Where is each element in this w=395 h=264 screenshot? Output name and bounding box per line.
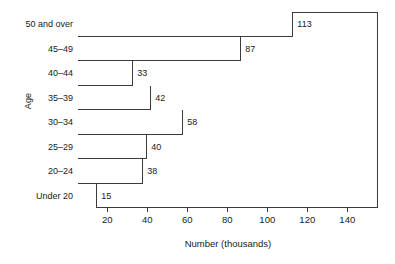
bar-value-label: 87 (241, 44, 255, 54)
x-tick-mark (147, 208, 148, 212)
bar (78, 37, 241, 62)
x-tick-label: 60 (167, 214, 207, 225)
bar-chart: Age 50 and over45–4940–4435–3930–3425–29… (0, 0, 395, 264)
bar-row: 87 (78, 37, 376, 62)
bar (78, 159, 143, 184)
bar-value-label: 38 (143, 166, 157, 176)
x-tick-mark (187, 208, 188, 212)
x-tick-mark (267, 208, 268, 212)
category-label: 50 and over (0, 19, 73, 29)
x-tick-label: 80 (207, 214, 247, 225)
bar (78, 110, 183, 135)
bar-value-label: 15 (97, 191, 111, 201)
x-tick-label: 120 (287, 214, 327, 225)
category-label: 35–39 (0, 93, 73, 103)
category-label: 30–34 (0, 117, 73, 127)
category-label: 45–49 (0, 44, 73, 54)
category-label: 40–44 (0, 68, 73, 78)
x-tick-mark (107, 208, 108, 212)
category-label: 20–24 (0, 166, 73, 176)
x-tick-label: 140 (327, 214, 367, 225)
bar-value-label: 40 (147, 142, 161, 152)
bar-row: 40 (78, 135, 376, 160)
bar (78, 86, 151, 111)
bar-row: 113 (78, 12, 376, 37)
x-tick-mark (347, 208, 348, 212)
category-label: Under 20 (0, 191, 73, 201)
bar-value-label: 42 (151, 93, 165, 103)
bar-row: 33 (78, 61, 376, 86)
bar-row: 15 (78, 184, 376, 209)
bar-value-label: 33 (133, 68, 147, 78)
bar-row: 42 (78, 86, 376, 111)
bar (78, 184, 97, 209)
bar-row: 38 (78, 159, 376, 184)
bar-value-label: 113 (293, 19, 311, 29)
bar-row: 58 (78, 110, 376, 135)
bar (78, 135, 147, 160)
x-axis-title: Number (thousands) (78, 238, 378, 249)
bar-value-label: 58 (183, 117, 197, 127)
x-tick-mark (307, 208, 308, 212)
x-tick-label: 20 (87, 214, 127, 225)
bar (78, 61, 133, 86)
x-tick-label: 100 (247, 214, 287, 225)
x-tick-mark (227, 208, 228, 212)
category-label: 25–29 (0, 142, 73, 152)
x-tick-label: 40 (127, 214, 167, 225)
bar (78, 12, 293, 37)
